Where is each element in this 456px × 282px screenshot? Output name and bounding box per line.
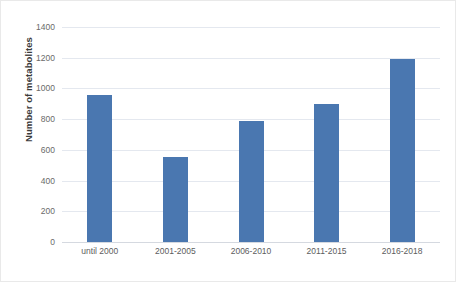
x-tick-label: 2011-2015 bbox=[307, 246, 347, 256]
bar bbox=[314, 104, 339, 242]
plot-area: 0200400600800100012001400 bbox=[62, 27, 440, 242]
bar bbox=[163, 157, 188, 242]
bar bbox=[239, 121, 264, 242]
bars-group bbox=[62, 27, 440, 242]
x-tick-label: 2016-2018 bbox=[382, 246, 423, 256]
bar bbox=[390, 59, 415, 242]
x-tick-label: 2006-2010 bbox=[231, 246, 272, 256]
y-tick-label: 0 bbox=[50, 237, 55, 247]
y-tick-label: 600 bbox=[41, 145, 55, 155]
frame-edge-left bbox=[0, 0, 1, 282]
y-tick-label: 800 bbox=[41, 114, 55, 124]
y-tick-label: 1400 bbox=[36, 22, 55, 32]
y-tick-label: 400 bbox=[41, 176, 55, 186]
axis-baseline: 0 bbox=[62, 242, 440, 243]
frame-edge-top bbox=[0, 0, 456, 1]
y-tick-label: 1200 bbox=[36, 53, 55, 63]
x-axis-labels-group: until 20002001-20052006-20102011-2015201… bbox=[62, 246, 440, 262]
x-tick-label: until 2000 bbox=[81, 246, 118, 256]
y-tick-label: 1000 bbox=[36, 83, 55, 93]
x-tick-label: 2001-2005 bbox=[155, 246, 196, 256]
y-axis-title: Number of metabolites bbox=[23, 10, 34, 170]
y-tick-label: 200 bbox=[41, 206, 55, 216]
bar bbox=[87, 95, 112, 242]
bar-chart: Number of metabolites 020040060080010001… bbox=[0, 0, 456, 282]
